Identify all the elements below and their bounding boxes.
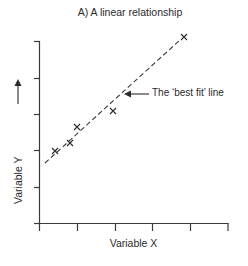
best-fit-line	[45, 40, 180, 163]
x-axis-label: Variable X	[39, 237, 228, 249]
chart-plot	[0, 0, 248, 266]
y-axis	[34, 41, 40, 224]
y-axis-label: Variable Y	[12, 104, 24, 204]
annotation-arrow	[124, 91, 149, 98]
y-axis-label-wrap: Variable Y	[5, 72, 31, 172]
best-fit-annotation: The ‘best fit’ line	[152, 87, 224, 98]
x-axis	[39, 223, 229, 231]
